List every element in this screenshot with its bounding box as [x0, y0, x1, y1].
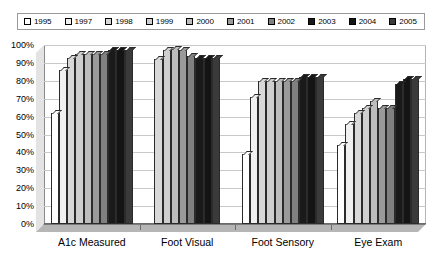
bar[interactable] — [59, 70, 67, 224]
bar[interactable] — [337, 145, 345, 224]
y-axis-tick-label: 80% — [16, 77, 34, 86]
bar[interactable] — [100, 54, 108, 224]
bar[interactable] — [67, 58, 75, 224]
x-axis-category-label: Foot Visual — [161, 237, 213, 248]
bar[interactable] — [275, 81, 283, 224]
bar[interactable] — [378, 108, 386, 224]
bar-group — [140, 45, 236, 224]
x-axis-tick — [140, 225, 141, 230]
y-axis-tick-label: 50% — [16, 131, 34, 140]
bar[interactable] — [242, 154, 250, 224]
bar[interactable] — [291, 81, 299, 224]
legend-item[interactable]: 1998 — [99, 18, 140, 26]
legend-swatch-icon — [349, 18, 356, 25]
bar-top-face — [371, 98, 381, 102]
bar[interactable] — [195, 58, 203, 224]
bar[interactable] — [92, 54, 100, 224]
legend-swatch-icon — [268, 18, 275, 25]
y-axis-tick-label: 0% — [21, 220, 34, 229]
bar-top-face — [126, 47, 136, 51]
legend-swatch-icon — [227, 18, 234, 25]
legend-item[interactable]: 2004 — [343, 18, 384, 26]
bar[interactable] — [163, 50, 171, 224]
legend-item[interactable]: 2003 — [302, 18, 343, 26]
bar[interactable] — [411, 79, 419, 224]
bar[interactable] — [154, 59, 162, 224]
bar[interactable] — [307, 77, 315, 224]
legend-swatch-icon — [65, 18, 72, 25]
bar[interactable] — [187, 56, 195, 224]
chart-screenshot: 1995199719981999200020012002200320042005… — [0, 0, 446, 263]
y-axis-tick-label: 60% — [16, 113, 34, 122]
legend-swatch-icon — [146, 18, 153, 25]
legend-item[interactable]: 1999 — [140, 18, 181, 26]
legend-item-label: 1999 — [156, 18, 173, 26]
bar[interactable] — [116, 50, 124, 224]
chart-left-wall — [36, 45, 44, 232]
legend-item-label: 1998 — [115, 18, 132, 26]
bar[interactable] — [345, 124, 353, 224]
legend-item-label: 2001 — [237, 18, 254, 26]
legend-item-label: 1995 — [34, 18, 51, 26]
bar-group — [331, 45, 427, 224]
bar[interactable] — [212, 58, 220, 224]
legend-item-label: 2005 — [399, 18, 416, 26]
bar[interactable] — [316, 77, 324, 224]
chart-legend: 1995199719981999200020012002200320042005 — [17, 13, 425, 30]
x-axis-category-label: Foot Sensory — [252, 237, 314, 248]
legend-item-label: 2004 — [359, 18, 376, 26]
bar[interactable] — [179, 50, 187, 224]
bar[interactable] — [125, 50, 133, 224]
bar-top-face — [180, 47, 190, 51]
legend-swatch-icon — [105, 18, 112, 25]
bar[interactable] — [84, 54, 92, 224]
legend-item-label: 2000 — [196, 18, 213, 26]
legend-swatch-icon — [308, 18, 315, 25]
bar[interactable] — [370, 101, 378, 225]
bar[interactable] — [362, 108, 370, 224]
bar[interactable] — [354, 113, 362, 224]
legend-item-label: 2003 — [318, 18, 335, 26]
legend-swatch-icon — [389, 18, 396, 25]
chart-floor — [36, 224, 426, 234]
bar[interactable] — [403, 79, 411, 224]
x-axis-category-label: Eye Exam — [354, 237, 402, 248]
bar[interactable] — [250, 97, 258, 224]
plot-area: 100%90%80%70%60%50%40%30%20%10%0% A1c Me… — [0, 38, 446, 263]
bar[interactable] — [75, 54, 83, 224]
x-axis-tick — [331, 225, 332, 230]
legend-item-label: 1997 — [75, 18, 92, 26]
x-axis-labels: A1c MeasuredFoot VisualFoot SensoryEye E… — [44, 237, 426, 257]
y-axis-tick-label: 30% — [16, 166, 34, 175]
y-axis-tick-label: 90% — [16, 59, 34, 68]
x-axis-category-label: A1c Measured — [58, 237, 126, 248]
bar[interactable] — [266, 81, 274, 224]
legend-item[interactable]: 1995 — [18, 18, 59, 26]
bar[interactable] — [299, 77, 307, 224]
bar-group — [44, 45, 140, 224]
bar-groups — [44, 45, 426, 224]
y-axis-tick-label: 100% — [11, 41, 34, 50]
legend-item[interactable]: 2000 — [180, 18, 221, 26]
plot-panel — [44, 45, 426, 224]
legend-swatch-icon — [186, 18, 193, 25]
bar[interactable] — [283, 81, 291, 224]
bar[interactable] — [108, 50, 116, 224]
legend-item[interactable]: 1997 — [59, 18, 100, 26]
legend-item[interactable]: 2002 — [262, 18, 303, 26]
y-axis-tick-label: 70% — [16, 95, 34, 104]
y-axis-tick-label: 10% — [16, 202, 34, 211]
x-axis-tick — [235, 225, 236, 230]
bar[interactable] — [51, 113, 59, 224]
bar[interactable] — [204, 58, 212, 224]
legend-item[interactable]: 2005 — [383, 18, 424, 26]
bar[interactable] — [386, 108, 394, 224]
bar-top-face — [317, 74, 327, 78]
legend-swatch-icon — [24, 18, 31, 25]
bar[interactable] — [258, 81, 266, 224]
y-axis-tick-label: 20% — [16, 184, 34, 193]
legend-item[interactable]: 2001 — [221, 18, 262, 26]
bar[interactable] — [171, 49, 179, 224]
bar-group — [235, 45, 331, 224]
legend-item-label: 2002 — [278, 18, 295, 26]
